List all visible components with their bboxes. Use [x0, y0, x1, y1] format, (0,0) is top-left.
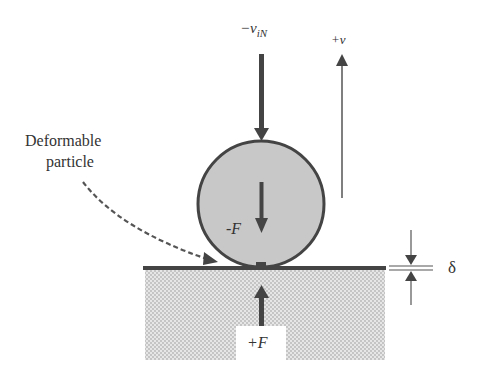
rebound-velocity-arrow [336, 54, 348, 198]
deformation-dimension [389, 230, 433, 305]
reaction-force-label: +F [247, 334, 268, 352]
rebound-velocity-label: +v [331, 32, 346, 48]
deformation-label: δ [448, 258, 456, 278]
particle-label-line2: particle [46, 153, 94, 171]
particle-label-line1: Deformable [25, 132, 101, 150]
initial-velocity-arrow [254, 54, 269, 141]
force-label: -F [226, 220, 241, 238]
initial-velocity-label: −viN [240, 20, 267, 39]
contact-flattening [256, 262, 266, 268]
impact-diagram [0, 0, 484, 375]
